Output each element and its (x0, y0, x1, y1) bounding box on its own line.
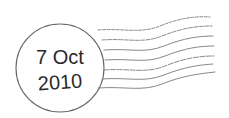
postmark-circle (16, 24, 104, 112)
postmark-stamp: 7 Oct 2010 (0, 0, 229, 118)
postmark-day-month: 7 Oct (16, 47, 104, 67)
cancellation-wavy-lines (98, 17, 215, 89)
